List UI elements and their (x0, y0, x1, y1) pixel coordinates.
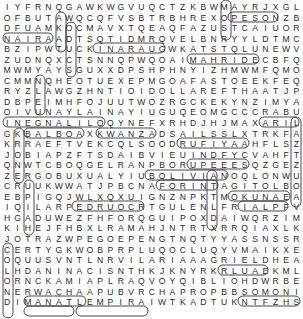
grid-cell[interactable]: M (229, 118, 239, 129)
grid-cell[interactable]: R (260, 107, 270, 118)
grid-cell[interactable]: R (188, 223, 198, 234)
grid-cell[interactable]: B (23, 150, 33, 161)
grid-cell[interactable]: E (12, 287, 22, 298)
grid-cell[interactable]: U (126, 192, 136, 203)
grid-cell[interactable]: R (198, 86, 208, 97)
grid-cell[interactable]: U (23, 255, 33, 266)
grid-cell[interactable]: I (12, 223, 22, 234)
grid-cell[interactable]: G (95, 234, 105, 245)
grid-cell[interactable]: H (250, 139, 260, 150)
grid-cell[interactable]: Q (116, 55, 126, 66)
grid-cell[interactable]: A (43, 65, 53, 76)
grid-cell[interactable]: G (43, 192, 53, 203)
grid-cell[interactable]: J (281, 86, 291, 97)
grid-cell[interactable]: R (12, 181, 22, 192)
grid-cell[interactable]: F (12, 23, 22, 34)
grid-cell[interactable]: F (281, 150, 291, 161)
grid-cell[interactable]: A (188, 86, 198, 97)
grid-cell[interactable]: K (198, 192, 208, 203)
grid-cell[interactable]: D (167, 139, 177, 150)
grid-cell[interactable]: E (85, 234, 95, 245)
grid-cell[interactable]: E (178, 34, 188, 45)
grid-cell[interactable]: V (147, 150, 157, 161)
grid-cell[interactable]: W (281, 44, 291, 55)
grid-cell[interactable]: T (147, 202, 157, 213)
grid-cell[interactable]: N (178, 192, 188, 203)
grid-cell[interactable]: B (74, 223, 84, 234)
grid-cell[interactable]: T (229, 23, 239, 34)
grid-cell[interactable]: L (105, 276, 115, 287)
grid-cell[interactable]: K (229, 297, 239, 308)
grid-cell[interactable]: W (136, 55, 146, 66)
grid-cell[interactable]: R (105, 223, 115, 234)
grid-cell[interactable]: O (198, 287, 208, 298)
grid-cell[interactable]: R (2, 86, 12, 97)
grid-cell[interactable]: T (291, 150, 301, 161)
grid-cell[interactable]: I (74, 276, 84, 287)
grid-cell[interactable]: A (85, 287, 95, 298)
grid-cell[interactable]: A (260, 118, 270, 129)
grid-cell[interactable]: A (147, 255, 157, 266)
grid-cell[interactable]: E (209, 86, 219, 97)
grid-cell[interactable]: A (33, 297, 43, 308)
grid-cell[interactable]: Z (250, 97, 260, 108)
grid-cell[interactable]: F (178, 23, 188, 34)
grid-cell[interactable]: L (271, 139, 281, 150)
grid-cell[interactable]: Q (178, 276, 188, 287)
grid-cell[interactable]: C (85, 13, 95, 24)
grid-cell[interactable]: N (2, 287, 12, 298)
grid-cell[interactable]: N (178, 65, 188, 76)
grid-cell[interactable]: R (126, 213, 136, 224)
grid-cell[interactable]: I (229, 55, 239, 66)
grid-cell[interactable]: U (105, 97, 115, 108)
grid-cell[interactable]: G (157, 107, 167, 118)
grid-cell[interactable]: W (54, 213, 64, 224)
grid-cell[interactable]: R (23, 139, 33, 150)
grid-cell[interactable]: F (188, 76, 198, 87)
grid-cell[interactable]: F (74, 150, 84, 161)
grid-cell[interactable]: N (2, 34, 12, 45)
grid-cell[interactable]: Q (2, 160, 12, 171)
grid-cell[interactable]: Q (157, 34, 167, 45)
grid-cell[interactable]: Y (240, 34, 250, 45)
grid-cell[interactable]: E (271, 44, 281, 55)
grid-cell[interactable]: D (126, 34, 136, 45)
grid-cell[interactable]: O (229, 76, 239, 87)
grid-cell[interactable]: W (54, 181, 64, 192)
grid-cell[interactable]: S (85, 34, 95, 45)
grid-cell[interactable]: U (147, 245, 157, 256)
grid-cell[interactable]: X (116, 23, 126, 34)
grid-cell[interactable]: X (157, 118, 167, 129)
grid-cell[interactable]: T (126, 97, 136, 108)
grid-cell[interactable]: Y (219, 234, 229, 245)
grid-cell[interactable]: N (157, 192, 167, 203)
grid-cell[interactable]: N (23, 276, 33, 287)
grid-cell[interactable]: A (54, 276, 64, 287)
grid-cell[interactable]: L (136, 255, 146, 266)
grid-cell[interactable]: M (260, 287, 270, 298)
grid-cell[interactable]: A (33, 129, 43, 140)
grid-cell[interactable]: E (74, 202, 84, 213)
grid-cell[interactable]: A (136, 223, 146, 234)
grid-cell[interactable]: D (2, 97, 12, 108)
grid-cell[interactable]: R (219, 55, 229, 66)
grid-cell[interactable]: A (126, 160, 136, 171)
grid-cell[interactable]: T (229, 86, 239, 97)
grid-cell[interactable]: I (33, 192, 43, 203)
grid-cell[interactable]: T (271, 86, 281, 97)
grid-cell[interactable]: X (240, 129, 250, 140)
grid-cell[interactable]: K (85, 44, 95, 55)
grid-cell[interactable]: E (136, 234, 146, 245)
grid-cell[interactable]: N (198, 202, 208, 213)
grid-cell[interactable]: G (178, 97, 188, 108)
grid-cell[interactable]: E (64, 213, 74, 224)
grid-cell[interactable]: X (116, 192, 126, 203)
grid-cell[interactable]: F (219, 202, 229, 213)
grid-cell[interactable]: R (147, 34, 157, 45)
grid-cell[interactable]: I (281, 118, 291, 129)
grid-cell[interactable]: I (167, 255, 177, 266)
grid-cell[interactable]: A (74, 266, 84, 277)
grid-cell[interactable]: I (240, 202, 250, 213)
grid-cell[interactable]: I (95, 266, 105, 277)
grid-cell[interactable]: K (271, 266, 281, 277)
